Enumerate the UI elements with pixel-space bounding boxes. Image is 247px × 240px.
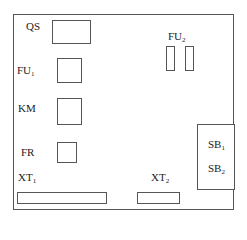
km-contactor-box	[57, 98, 82, 125]
fr-label: FR	[21, 146, 34, 158]
fu2-label: FU2	[168, 30, 186, 46]
sb-button-box	[197, 124, 235, 190]
qs-label: QS	[26, 20, 40, 32]
sb2-label: SB2	[208, 162, 225, 178]
qs-switch-box	[52, 20, 91, 44]
xt1-terminal-block	[17, 192, 107, 204]
xt2-label: XT2	[151, 171, 169, 187]
fu2-fuse-left	[166, 46, 175, 71]
sb1-label: SB1	[208, 138, 225, 154]
km-label: KM	[18, 102, 36, 114]
fr-relay-box	[57, 142, 77, 163]
xt2-terminal-block	[137, 192, 180, 204]
fu2-fuse-right	[185, 46, 194, 71]
xt1-label: XT1	[18, 171, 36, 187]
fu1-fuse-box	[57, 58, 82, 83]
fu1-label: FU1	[17, 64, 35, 80]
